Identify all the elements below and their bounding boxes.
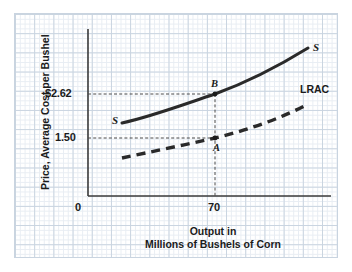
point-a-marker [213,136,218,141]
supply-curve-label-left: S [112,115,118,126]
point-b-label: B [211,79,218,90]
x-tick-label-70: 70 [208,202,220,213]
lrac-curve-label: LRAC [300,84,329,95]
y-tick-label-262: $2.62 [45,88,72,99]
point-b-marker [213,92,218,97]
x-origin-label: 0 [75,202,81,213]
x-axis-title-line2: Millions of Bushels of Corn [128,239,298,250]
y-tick-label-150: 1.50 [55,132,76,143]
x-axis-title-line1: Output in [128,226,298,237]
point-a-label: A [213,143,220,154]
chart-figure: Price, Average Cost per Bushel $2.62 1.5… [0,0,352,272]
supply-curve-label-right: S [313,42,319,53]
y-axis-title: Price, Average Cost per Bushel [40,34,51,190]
